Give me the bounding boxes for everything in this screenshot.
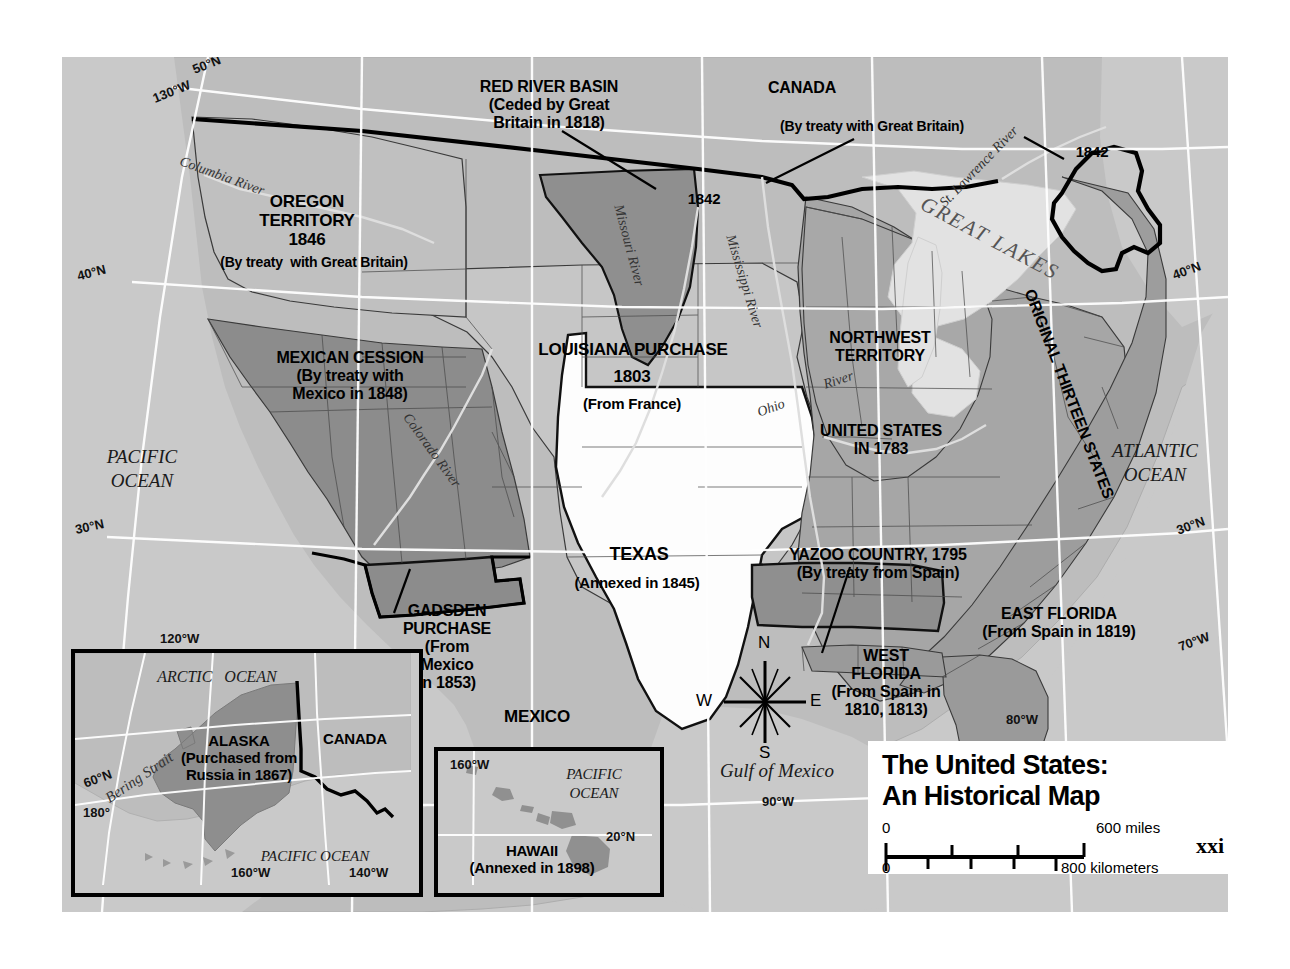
label-1842-east: 1842 [1062,144,1122,161]
hawaii-inset: PACIFIC OCEAN HAWAII (Annexed in 1898) 1… [434,747,664,897]
alaska-grid-180: 180° [83,805,110,820]
hawaii-label: HAWAII (Annexed in 1898) [442,843,622,877]
scale-miles-max: 600 miles [1096,819,1160,836]
label-mexico: MEXICO [447,707,627,726]
alaska-inset: ARCTIC OCEAN Bering Strait PACIFIC OCEAN… [71,649,423,897]
compass-south-label: S [759,743,770,763]
compass-rose: N S E W [710,647,820,757]
page-number: xxi [1196,833,1224,859]
scale-bar-graphic [878,837,1218,877]
map-title-line-1: The United States: [882,750,1228,781]
label-texas: TEXAS [559,544,719,564]
label-pacific-ocean: PACIFIC OCEAN [62,445,222,493]
map-title-legend-box: The United States: An Historical Map 0 6… [868,741,1228,874]
label-united-states-1783: UNITED STATES IN 1783 [776,422,986,458]
alaska-arctic-ocean-label: ARCTIC OCEAN [117,667,317,687]
label-louisiana-from: (From France) [532,396,732,413]
label-northwest-territory: NORTHWEST TERRITORY [780,329,980,365]
label-1842-west: 1842 [674,191,734,208]
map-title-line-2: An Historical Map [882,781,1228,812]
label-gulf-of-mexico: Gulf of Mexico [662,759,892,783]
compass-west-label: W [696,691,712,711]
alaska-label: ALASKA (Purchased from Russia in 1867) [139,733,339,783]
label-louisiana-purchase: LOUISIANA PURCHASE [488,340,778,359]
label-mexican-cession: MEXICAN CESSION (By treaty with Mexico i… [210,349,490,403]
scale-km-max: 800 kilometers [1061,859,1159,876]
hawaii-grid-20n: 20°N [606,829,635,844]
label-east-florida: EAST FLORIDA (From Spain in 1819) [934,605,1184,641]
label-oregon-treaty: (By treaty with Great Britain) [154,255,474,271]
scale-km-zero: 0 [882,859,890,876]
label-canada: CANADA [702,79,902,97]
hawaii-pacific-ocean-label: PACIFIC OCEAN [542,765,646,803]
scale-bar: 0 600 miles 0 800 kilometers [868,819,1228,879]
historical-map-page: RED RIVER BASIN (Ceded by Great Britain … [0,0,1290,969]
alaska-pacific-ocean-label: PACIFIC OCEAN [225,847,405,866]
label-red-river-basin: RED RIVER BASIN (Ceded by Great Britain … [404,78,694,132]
hawaii-grid-160w: 160°W [450,757,489,772]
label-yazoo-country: YAZOO COUNTRY, 1795 (By treaty from Spai… [728,546,1028,582]
label-louisiana-year: 1803 [562,367,702,386]
label-atlantic-ocean: ATLANTIC OCEAN [1080,439,1228,487]
compass-east-label: E [810,691,821,711]
scale-miles-zero: 0 [882,819,890,836]
alaska-grid-140w: 140°W [349,865,388,880]
compass-star-icon [710,647,820,757]
label-canada-treaty: (By treaty with Great Britain) [712,119,1032,135]
compass-north-label: N [758,633,770,653]
label-texas-annexed: (Annexed in 1845) [522,575,752,592]
label-oregon-territory: OREGON TERRITORY 1846 [187,192,427,249]
alaska-grid-160w: 160°W [231,865,270,880]
